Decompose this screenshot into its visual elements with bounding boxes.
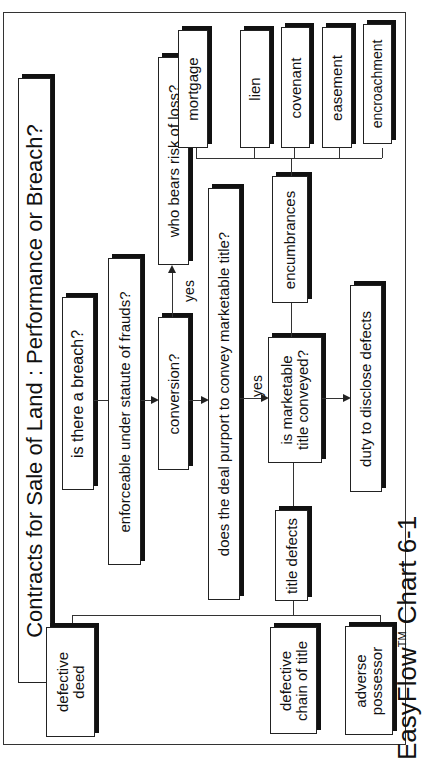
connector-covenant [294, 148, 295, 158]
node-conveyed-label: is marketable title conveyed? [279, 350, 311, 450]
node-conversion-label: conversion? [165, 353, 181, 434]
node-title-defects-label: title defects [283, 518, 299, 594]
connector-conveyed-title-defects [293, 463, 294, 510]
node-encroachment-label: encroachment [370, 40, 385, 129]
node-defective-deed: defective deed [46, 627, 95, 737]
node-adverse-possessor: adverse possessor [345, 626, 393, 735]
node-defective-chain-label: defective chain of title [277, 640, 309, 720]
connector-defective-deed [72, 615, 73, 627]
connector-title-defects-trunk [293, 601, 294, 615]
defective-chain-line1: defective [276, 650, 293, 710]
node-conversion: conversion? [158, 317, 189, 470]
node-defective-chain-of-title: defective chain of title [270, 627, 317, 734]
title-box: Contracts for Sale of Land : Performance… [18, 78, 51, 683]
adverse-possessor-line2: possessor [368, 646, 385, 714]
chart-footer: EasyFlowTM Chart 6-1 [392, 516, 423, 760]
connector-encroachment [382, 148, 383, 158]
node-title-defects: title defects [275, 510, 308, 601]
node-mortgage: mortgage [178, 30, 208, 148]
node-defective-deed-label: defective deed [54, 652, 86, 712]
node-lien-label: lien [247, 77, 263, 100]
connector-title-defects-bar [72, 615, 380, 616]
connector-adverse-possessor [380, 615, 381, 625]
connector-mortgage [196, 148, 197, 158]
edge-label-yes: yes [249, 375, 265, 397]
node-purport-marketable: does the deal purport to convey marketab… [208, 188, 240, 600]
node-easement-label: easement [329, 55, 345, 121]
adverse-possessor-line1: adverse [352, 654, 369, 707]
connector-easement [339, 148, 340, 158]
node-marketable-conveyed: is marketable title conveyed? [268, 337, 322, 463]
node-purport-label: does the deal purport to convey marketab… [216, 232, 232, 556]
node-adverse-possessor-label: adverse possessor [353, 646, 385, 714]
node-duty-label: duty to disclose defects [358, 311, 374, 467]
arrow-up-icon [168, 265, 176, 273]
connector-conversion-risk [172, 272, 173, 317]
connector-breach-statute [94, 400, 108, 401]
node-conveyed-line2: title conveyed? [294, 350, 311, 450]
connector-encumbrances-trunk [291, 158, 292, 176]
connector-lien [254, 148, 255, 158]
node-statute-label: enforceable under statute of frauds? [116, 291, 132, 532]
defective-chain-line2: chain of title [293, 640, 310, 720]
node-conveyed-line1: is marketable [278, 355, 295, 444]
edge-label-yes: yes [181, 280, 197, 302]
node-lien: lien [240, 30, 270, 148]
node-encroachment: encroachment [363, 24, 392, 144]
diagram-title: Contracts for Sale of Land : Performance… [23, 124, 47, 638]
node-encumbrances-label: encumbrances [282, 190, 298, 288]
node-easement: easement [322, 27, 352, 148]
node-breach: is there a breach? [62, 297, 94, 490]
node-mortgage-label: mortgage [185, 57, 201, 120]
node-covenant-label: covenant [287, 57, 303, 118]
connector-encumbrances-bar [196, 158, 382, 159]
node-covenant: covenant [281, 27, 310, 148]
defective-deed-line2: deed [70, 665, 87, 698]
defective-deed-line1: defective [53, 652, 70, 712]
node-statute-of-frauds: enforceable under statute of frauds? [108, 258, 141, 565]
footer-trademark: TM [396, 631, 408, 647]
footer-brand: EasyFlow [392, 647, 422, 760]
footer-chart-label: Chart 6-1 [392, 516, 422, 624]
node-duty-disclose: duty to disclose defects [350, 285, 382, 492]
node-breach-label: is there a breach? [69, 329, 86, 457]
connector-conveyed-encumbrances [291, 303, 292, 337]
node-encumbrances: encumbrances [272, 176, 308, 303]
